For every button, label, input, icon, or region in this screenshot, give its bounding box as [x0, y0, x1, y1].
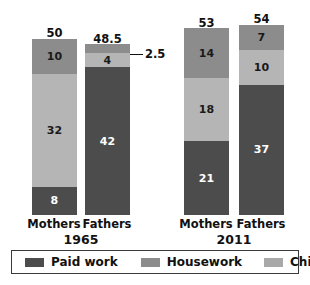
- bar-total-mothers-1965: 50: [32, 28, 77, 40]
- segment-value: 21: [199, 173, 215, 184]
- bar-segment-paid-work[interactable]: 21: [184, 141, 229, 215]
- bar-segment-housework[interactable]: 18: [184, 78, 229, 141]
- category-label-fathers-2011: Fathers: [230, 219, 292, 231]
- bar-segment-housework[interactable]: 32: [32, 74, 77, 187]
- legend-swatch-icon: [141, 258, 160, 267]
- bar-segment-housework[interactable]: 10: [239, 50, 284, 85]
- segment-value: 14: [199, 48, 215, 59]
- segment-value: 37: [254, 144, 270, 155]
- bar-segment-child-care[interactable]: 10: [32, 39, 77, 74]
- group-label-2011: 2011: [179, 234, 289, 247]
- segment-value: 42: [100, 136, 116, 147]
- legend-item-housework[interactable]: Housework: [141, 251, 242, 273]
- segment-value: 18: [199, 104, 215, 115]
- group-label-1965: 1965: [26, 234, 136, 247]
- legend-swatch-icon: [25, 258, 44, 267]
- segment-value: 8: [51, 195, 59, 206]
- legend-item-child-care[interactable]: Child care: [264, 251, 310, 273]
- segment-value: 4: [104, 55, 112, 66]
- segment-value: 32: [47, 125, 63, 136]
- category-label-mothers-2011: Mothers: [175, 219, 237, 231]
- callout-label-2point5: 2.5: [145, 49, 165, 61]
- segment-value: 10: [47, 51, 63, 62]
- bar-segment-paid-work[interactable]: 37: [239, 85, 284, 215]
- category-label-fathers-1965: Fathers: [76, 219, 138, 231]
- chart-legend: Paid work Housework Child care: [11, 250, 299, 274]
- bar-fathers-2011[interactable]: 7 10 37: [239, 25, 284, 215]
- bar-segment-paid-work[interactable]: 8: [32, 187, 77, 215]
- bar-segment-paid-work[interactable]: 42: [85, 67, 130, 215]
- segment-value: 10: [254, 62, 270, 73]
- legend-swatch-icon: [264, 258, 283, 267]
- bar-segment-child-care[interactable]: 7: [239, 25, 284, 50]
- legend-label: Child care: [290, 256, 310, 268]
- bar-segment-child-care[interactable]: 2.5: [85, 44, 130, 53]
- plot-area: 50 10 32 8 48.5 2.5 4 42: [0, 0, 310, 215]
- bar-segment-housework[interactable]: 4: [85, 53, 130, 67]
- bar-mothers-2011[interactable]: 14 18 21: [184, 28, 229, 215]
- legend-label: Housework: [167, 256, 242, 268]
- legend-item-paid-work[interactable]: Paid work: [25, 251, 118, 273]
- bar-total-fathers-2011: 54: [239, 14, 284, 26]
- segment-value: 7: [258, 32, 266, 43]
- bar-segment-child-care[interactable]: 14: [184, 28, 229, 77]
- legend-label: Paid work: [51, 256, 118, 268]
- stacked-bar-chart: 50 10 32 8 48.5 2.5 4 42: [0, 0, 310, 285]
- callout-leader-line: [130, 54, 143, 56]
- bar-fathers-1965[interactable]: 2.5 4 42: [85, 44, 130, 215]
- bar-total-mothers-2011: 53: [184, 18, 229, 30]
- bar-mothers-1965[interactable]: 10 32 8: [32, 39, 77, 215]
